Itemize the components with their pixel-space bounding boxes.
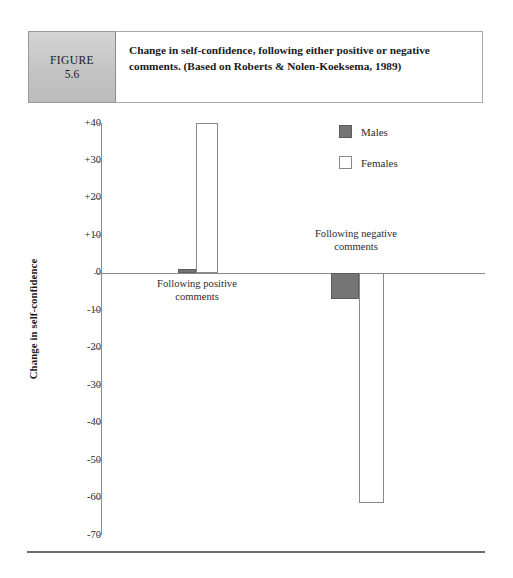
legend-label-males: Males <box>361 126 388 138</box>
zero-baseline <box>101 273 485 274</box>
y-tick-minus70: -70 <box>0 530 101 541</box>
figure-number-badge: FIGURE 5.6 <box>28 31 116 103</box>
y-tick-mark <box>94 423 101 424</box>
figure-caption-header: FIGURE 5.6 Change in self-confidence, fo… <box>28 31 483 103</box>
y-tick-label: +40 <box>59 118 101 129</box>
category-label-negative-line1: Following negative <box>315 228 397 239</box>
y-tick-mark <box>94 460 101 461</box>
bar-males-negative <box>331 273 359 299</box>
figure-badge-number: 5.6 <box>65 68 79 80</box>
category-label-positive-line1: Following positive <box>157 278 237 289</box>
y-tick-minus20: -20 <box>0 342 101 353</box>
y-tick-mark <box>96 123 101 124</box>
figure-badge-word: FIGURE <box>50 54 94 66</box>
bar-chart: Change in self-confidence +40+30+20+100-… <box>0 108 513 538</box>
category-label-negative: Following negative comments <box>281 227 431 253</box>
y-axis-line <box>101 123 102 535</box>
y-tick-mark <box>94 161 101 162</box>
y-tick-mark <box>94 198 101 199</box>
legend-label-females: Females <box>361 157 398 169</box>
category-label-negative-line2: comments <box>334 241 378 252</box>
legend-swatch-males-icon <box>339 125 352 138</box>
y-tick-plus30: +30 <box>0 155 101 166</box>
y-tick-plus10: +10 <box>0 230 101 241</box>
figure-footer-rule <box>27 551 485 553</box>
y-tick-minus60: -60 <box>0 492 101 503</box>
y-tick-plus20: +20 <box>0 192 101 203</box>
bar-males-positive <box>178 269 196 273</box>
y-tick-minus50: -50 <box>0 455 101 466</box>
y-tick-mark <box>94 310 101 311</box>
y-tick-minus30: -30 <box>0 380 101 391</box>
legend-item-males: Males <box>339 124 459 139</box>
y-tick-minus10: -10 <box>0 305 101 316</box>
legend-swatch-females-icon <box>339 156 352 169</box>
y-tick-mark <box>94 498 101 499</box>
category-label-positive: Following positive comments <box>123 277 271 303</box>
y-tick-label: -70 <box>59 530 101 541</box>
y-tick-mark <box>96 535 101 536</box>
legend-item-females: Females <box>339 155 459 170</box>
y-tick-mark <box>94 348 101 349</box>
y-tick-plus40: +40 <box>0 118 101 129</box>
category-label-positive-line2: comments <box>175 291 219 302</box>
y-tick-minus40: -40 <box>0 417 101 428</box>
y-tick-mark <box>94 273 101 274</box>
bar-females-positive <box>196 123 218 273</box>
bar-females-negative <box>359 273 384 503</box>
figure-caption-text: Change in self-confidence, following eit… <box>129 42 470 75</box>
chart-legend: Males Females <box>339 124 459 186</box>
y-tick-mark <box>94 235 101 236</box>
y-tick-0: 0 <box>0 267 101 278</box>
figure-caption-box: Change in self-confidence, following eit… <box>116 31 483 103</box>
y-tick-mark <box>94 385 101 386</box>
